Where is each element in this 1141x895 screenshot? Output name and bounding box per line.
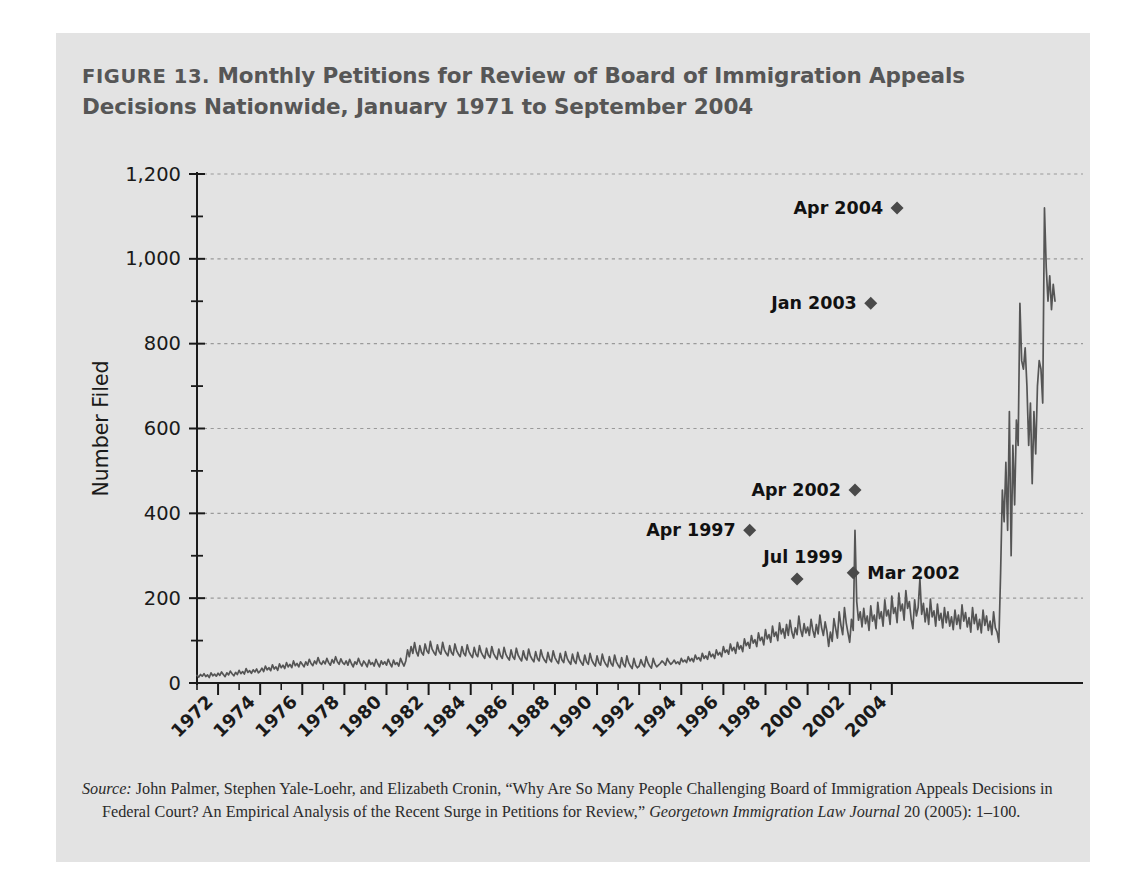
x-axis-tick-label: 1998 (714, 691, 764, 741)
annotation-label: Jan 2003 (770, 293, 857, 313)
x-axis-tick-label: 1976 (251, 691, 301, 741)
annotation-label: Apr 1997 (646, 520, 736, 540)
y-axis-tick-label: 800 (144, 332, 181, 355)
y-axis-title: Number Filed (89, 360, 113, 496)
source-note: Source: John Palmer, Stephen Yale-Loehr,… (82, 778, 1067, 823)
y-axis-tick-label: 1,200 (125, 163, 181, 186)
x-axis-tick-label: 1980 (335, 691, 385, 741)
x-axis-tick-label: 1986 (461, 691, 511, 741)
x-axis-tick-label: 1990 (546, 691, 596, 741)
x-axis-tick-label: 1972 (167, 691, 217, 741)
x-axis-tick-label: 1974 (209, 691, 259, 741)
annotation-marker-diamond (848, 484, 861, 497)
x-axis-tick-label: 1978 (293, 691, 343, 741)
source-label: Source: (82, 780, 132, 798)
x-axis-tick-label: 1988 (503, 691, 553, 741)
y-axis-tick-label: 400 (144, 502, 181, 525)
x-axis-tick-label: 2004 (840, 691, 890, 741)
annotation-label: Apr 2004 (794, 198, 884, 218)
y-axis-tick-label: 600 (144, 417, 181, 440)
source-journal-title: Georgetown Immigration Law Journal (649, 803, 900, 821)
annotation-marker-diamond (743, 524, 756, 537)
data-series-line (197, 208, 1055, 678)
x-axis-tick-label: 1982 (377, 691, 427, 741)
source-text-part2: 20 (2005): 1–100. (900, 803, 1021, 821)
x-axis-tick-label: 1992 (588, 691, 638, 741)
annotation-marker-diamond (864, 297, 877, 310)
x-axis-tick-label: 1996 (672, 691, 722, 741)
line-chart-svg: 02004006008001,0001,200Number Filed19721… (56, 33, 1090, 862)
x-axis-tick-label: 1984 (419, 691, 469, 741)
annotation-marker-diamond (891, 201, 904, 214)
y-axis-tick-label: 200 (144, 587, 181, 610)
annotation-marker-diamond (847, 566, 860, 579)
figure-panel: FIGURE 13. Monthly Petitions for Review … (56, 33, 1090, 862)
chart-plot-area: 02004006008001,0001,200Number Filed19721… (56, 33, 1090, 862)
x-axis-tick-label: 2002 (798, 691, 848, 741)
y-axis-tick-label: 0 (169, 672, 181, 695)
x-axis-tick-label: 2000 (756, 691, 806, 741)
annotation-label: Jul 1999 (762, 547, 843, 567)
annotation-label: Apr 2002 (751, 480, 841, 500)
y-axis-tick-label: 1,000 (125, 247, 181, 270)
annotation-marker-diamond (791, 573, 804, 586)
annotation-label: Mar 2002 (867, 563, 960, 583)
x-axis-tick-label: 1994 (630, 691, 680, 741)
